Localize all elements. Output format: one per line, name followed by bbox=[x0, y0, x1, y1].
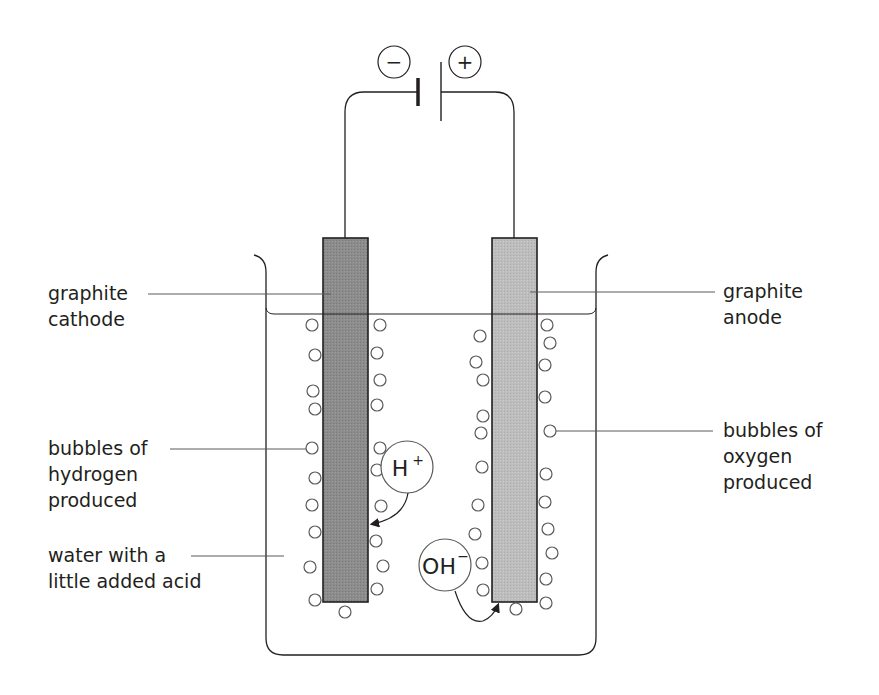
graphite-anode bbox=[492, 238, 537, 602]
electrolysis-diagram: − + bbox=[0, 0, 879, 695]
svg-text:−: − bbox=[457, 548, 469, 564]
leader-lines bbox=[148, 292, 715, 556]
wire-to-anode bbox=[441, 92, 514, 238]
oxygen-label: bubbles of oxygen produced bbox=[723, 419, 829, 493]
negative-sign: − bbox=[386, 50, 403, 74]
svg-text:+: + bbox=[412, 452, 424, 468]
beaker bbox=[254, 255, 608, 655]
svg-text:H: H bbox=[392, 456, 409, 481]
positive-sign: + bbox=[457, 50, 474, 74]
water-surface bbox=[266, 308, 596, 314]
hydrogen-label: bubbles of hydrogen produced bbox=[48, 437, 154, 511]
oh-minus-ion: OH − bbox=[419, 539, 498, 621]
battery: − + bbox=[378, 46, 481, 121]
anode-label: graphite anode bbox=[723, 280, 809, 328]
svg-text:OH: OH bbox=[422, 554, 456, 579]
water-label: water with a little added acid bbox=[48, 544, 201, 592]
wire-to-cathode bbox=[345, 92, 418, 238]
graphite-cathode bbox=[323, 238, 368, 602]
cathode-label: graphite cathode bbox=[48, 282, 134, 330]
